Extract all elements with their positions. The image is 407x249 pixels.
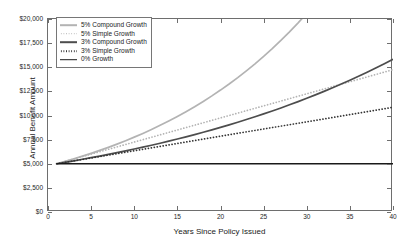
x-axis-tick-mark (48, 19, 49, 23)
chart-legend: 5% Compound Growth5% Simple Growth3% Com… (56, 17, 152, 68)
x-axis-tick-mark (264, 206, 265, 210)
x-axis-tick-label: 0 (46, 214, 50, 221)
y-axis-title: Annual Benefit Amount (29, 38, 37, 198)
y-axis-tick-mark (387, 43, 391, 44)
y-axis-tick-mark (387, 188, 391, 189)
y-axis-tick-mark (48, 164, 52, 165)
x-axis-tick-mark (264, 19, 265, 23)
y-axis-tick-label: $20,000 (20, 16, 44, 23)
y-axis-tick-mark (48, 43, 52, 44)
legend-label: 3% Compound Growth (81, 39, 147, 46)
legend-item[interactable]: 0% Growth (60, 55, 147, 64)
x-axis-tick-mark (307, 206, 308, 210)
legend-swatch-dotted-icon (60, 47, 77, 55)
y-axis-tick-mark (48, 188, 52, 189)
y-axis-tick-mark (48, 140, 52, 141)
legend-label: 5% Compound Growth (81, 22, 147, 29)
x-axis-tick-label: 30 (303, 214, 310, 221)
x-axis-tick-label: 5 (89, 214, 93, 221)
legend-item[interactable]: 3% Compound Growth (60, 38, 147, 47)
legend-label: 0% Growth (81, 56, 113, 63)
x-axis-tick-mark (393, 206, 394, 210)
x-axis-tick-mark (350, 19, 351, 23)
y-axis-tick-mark (387, 91, 391, 92)
y-axis-tick-mark (387, 164, 391, 165)
x-axis-tick-mark (350, 206, 351, 210)
x-axis-tick-mark (91, 206, 92, 210)
x-axis-tick-mark (134, 206, 135, 210)
legend-item[interactable]: 3% Simple Growth (60, 47, 147, 56)
x-axis-tick-mark (393, 19, 394, 23)
legend-swatch-dotted-icon (60, 30, 77, 38)
legend-swatch-solid-icon (60, 56, 77, 64)
x-axis-title: Years Since Policy Issued (47, 228, 392, 236)
chart-container: $0$2,500$5,000$7,500$10,000$12,500$15,00… (0, 0, 407, 249)
y-axis-tick-mark (387, 19, 391, 20)
x-axis-tick-mark (307, 19, 308, 23)
y-axis-tick-label: $0 (36, 209, 43, 216)
legend-item[interactable]: 5% Simple Growth (60, 30, 147, 39)
legend-swatch-solid-icon (60, 38, 77, 46)
legend-item[interactable]: 5% Compound Growth (60, 21, 147, 30)
series-line (57, 107, 393, 163)
legend-label: 3% Simple Growth (81, 48, 135, 55)
x-axis-tick-label: 20 (217, 214, 224, 221)
x-axis-tick-mark (221, 206, 222, 210)
x-axis-tick-mark (221, 19, 222, 23)
x-axis-tick-mark (177, 206, 178, 210)
legend-swatch-solid-icon (60, 21, 77, 29)
x-axis-tick-label: 35 (346, 214, 353, 221)
x-axis-tick-mark (48, 206, 49, 210)
y-axis-tick-mark (387, 140, 391, 141)
x-axis-tick-label: 15 (174, 214, 181, 221)
legend-label: 5% Simple Growth (81, 31, 135, 38)
x-axis-tick-label: 10 (131, 214, 138, 221)
x-axis-tick-label: 25 (260, 214, 267, 221)
y-axis-tick-mark (48, 91, 52, 92)
x-axis-tick-mark (177, 19, 178, 23)
y-axis-tick-mark (387, 67, 391, 68)
y-axis-tick-mark (48, 116, 52, 117)
y-axis-tick-mark (387, 116, 391, 117)
y-axis-tick-mark (48, 67, 52, 68)
x-axis-tick-label: 40 (389, 214, 396, 221)
